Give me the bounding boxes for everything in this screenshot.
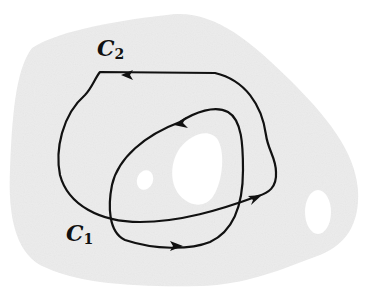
label-c1-subscript: 1 [84, 231, 94, 247]
label-c2-main: C [97, 35, 115, 61]
label-c2-subscript: 2 [115, 46, 125, 62]
gray-region [10, 14, 358, 286]
label-c1-main: C [66, 220, 84, 246]
diagram-canvas [0, 0, 370, 294]
label-c2: C2 [97, 37, 124, 61]
label-c1: C1 [66, 222, 93, 246]
